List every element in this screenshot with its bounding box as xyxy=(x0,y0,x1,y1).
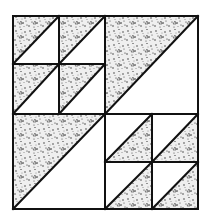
quilt-layer xyxy=(13,16,198,209)
quilt-block-diagram xyxy=(0,0,207,218)
